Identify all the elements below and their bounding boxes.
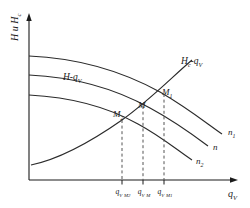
curve-label-system-tail-sub: V — [199, 62, 203, 68]
x-tick-label-m1: qV M1 — [157, 188, 172, 198]
curve-label-system-hc: Hc-qV — [181, 57, 202, 68]
point-label-m2-sub: 2 — [121, 115, 124, 121]
pump-characteristic-diagram: H и Hc qV Hc-qV H-qV n1 n n2 M1 M M2 qV … — [0, 0, 250, 208]
point-label-m2-base: M — [113, 109, 121, 119]
curve-label-speed-n2-sub: 2 — [201, 162, 204, 168]
point-label-m1-sub: 1 — [170, 93, 173, 99]
x-tick-label-m1-sub2: M1 — [166, 193, 172, 198]
x-tick-label-m-sub1: V — [141, 193, 144, 198]
curve-label-speed-n2: n2 — [196, 157, 203, 169]
x-tick-label-m: qV M — [138, 188, 151, 198]
y-axis-arrowhead — [26, 13, 31, 21]
curve-label-speed-n1: n1 — [228, 128, 235, 140]
curve-label-system-base: H — [181, 56, 188, 66]
point-label-m2: M2 — [113, 110, 123, 122]
point-label-m1-base: M — [162, 87, 170, 97]
curve-system-hc — [31, 60, 192, 165]
curve-label-system-tail: -q — [191, 56, 199, 66]
curve-label-speed-n-base: n — [213, 142, 218, 152]
curve-label-speed-n: n — [213, 143, 218, 152]
point-label-m-base: M — [138, 100, 146, 110]
curve-label-pump-h: H-qV — [63, 73, 82, 84]
point-label-m: M — [138, 101, 146, 110]
y-axis-label-text: H и H — [9, 16, 20, 40]
x-tick-label-m2: qV M2 — [115, 188, 130, 198]
x-tick-label-m2-sub2: M2 — [124, 193, 130, 198]
x-tick-label-m1-sub1: V — [161, 193, 164, 198]
x-axis-label: qV — [228, 189, 237, 202]
diagram-canvas — [0, 0, 250, 208]
curve-label-speed-n1-sub: 1 — [233, 133, 236, 139]
y-axis-label: H и Hc — [10, 4, 23, 50]
x-axis-arrowhead — [230, 177, 238, 182]
curve-label-pump-sub: V — [78, 78, 82, 84]
point-label-m1: M1 — [162, 88, 172, 100]
curve-label-pump-base: H-q — [63, 72, 78, 82]
x-axis-label-subscript: V — [233, 194, 237, 201]
y-axis-label-subscript: c — [15, 14, 22, 17]
x-tick-label-m2-sub1: V — [119, 193, 122, 198]
x-tick-label-m-sub2: M — [146, 193, 150, 198]
